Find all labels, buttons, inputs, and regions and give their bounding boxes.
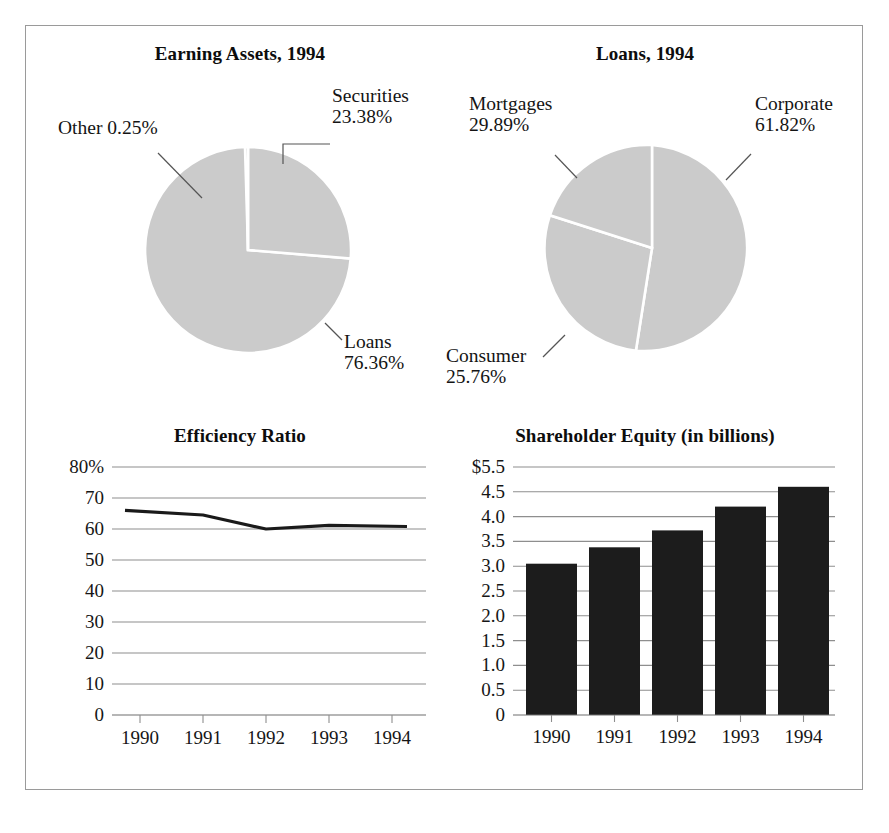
efficiency-x-tickmarks [140, 715, 392, 723]
equity-xtick-1992: 1992 [642, 726, 713, 748]
corporate-label-block: Corporate 61.82% [755, 93, 833, 135]
equity-ytick-3-0: 3.0 [445, 555, 505, 577]
pie-slice-securities[interactable] [248, 147, 351, 259]
efficiency-ytick-50: 50 [40, 549, 104, 571]
efficiency-data-line [125, 510, 407, 529]
panel-loans: Loans, 1994 Mortgages 29.89% Corporate 6… [445, 35, 845, 385]
loans-label-block: Loans 76.36% [344, 331, 404, 373]
bar-1992[interactable] [652, 530, 703, 715]
equity-ytick-0: 0 [445, 704, 505, 726]
bar-1993[interactable] [715, 507, 766, 715]
consumer-leader-line [543, 335, 565, 357]
other-label: Other 0.25% [58, 117, 158, 138]
panel-efficiency-ratio: Efficiency Ratio [40, 425, 440, 765]
efficiency-gridlines [112, 467, 426, 684]
mortgages-leader-line [555, 155, 577, 178]
panel-earning-assets: Earning Assets, 1994 Securities 23.38% O… [40, 35, 440, 385]
securities-label: Securities [332, 85, 409, 106]
equity-xtick-1993: 1993 [705, 726, 776, 748]
equity-ytick-0-5: 0.5 [445, 679, 505, 701]
equity-xtick-1990: 1990 [516, 726, 587, 748]
efficiency-ytick-10: 10 [40, 673, 104, 695]
equity-ytick-5-5: $5.5 [445, 456, 505, 478]
equity-x-tickmarks [552, 715, 804, 722]
efficiency-ytick-60: 60 [40, 518, 104, 540]
corporate-leader-line [726, 154, 751, 180]
efficiency-ytick-40: 40 [40, 580, 104, 602]
equity-ytick-4-5: 4.5 [445, 481, 505, 503]
efficiency-xtick-1992: 1992 [231, 727, 301, 749]
equity-ytick-1-5: 1.5 [445, 630, 505, 652]
efficiency-xtick-1991: 1991 [168, 727, 238, 749]
figure-page: Earning Assets, 1994 Securities 23.38% O… [0, 0, 889, 833]
consumer-label-block: Consumer 25.76% [446, 345, 526, 387]
loans-leader-line [325, 323, 342, 340]
securities-value: 23.38% [332, 106, 409, 127]
mortgages-label: Mortgages [469, 93, 552, 114]
bar-1994[interactable] [778, 487, 829, 715]
bar-1991[interactable] [589, 547, 640, 715]
equity-ytick-4-0: 4.0 [445, 506, 505, 528]
equity-ytick-2-5: 2.5 [445, 580, 505, 602]
efficiency-xtick-1990: 1990 [105, 727, 175, 749]
equity-ytick-1-0: 1.0 [445, 654, 505, 676]
equity-ytick-2-0: 2.0 [445, 605, 505, 627]
shareholder-equity-svg [445, 425, 855, 765]
equity-xtick-1991: 1991 [579, 726, 650, 748]
equity-ytick-3-5: 3.5 [445, 530, 505, 552]
efficiency-ytick-20: 20 [40, 642, 104, 664]
corporate-label: Corporate [755, 93, 833, 114]
efficiency-ytick-70: 70 [40, 487, 104, 509]
consumer-value: 25.76% [446, 366, 526, 387]
securities-label-block: Securities 23.38% [332, 85, 409, 127]
loans-label: Loans [344, 331, 404, 352]
loans-value: 76.36% [344, 352, 404, 373]
mortgages-label-block: Mortgages 29.89% [469, 93, 552, 135]
bar-1990[interactable] [526, 564, 577, 715]
efficiency-ytick-0: 0 [40, 704, 104, 726]
consumer-label: Consumer [446, 345, 526, 366]
efficiency-xtick-1994: 1994 [357, 727, 427, 749]
efficiency-xtick-1993: 1993 [294, 727, 364, 749]
loans-pie-svg [445, 35, 845, 385]
corporate-value: 61.82% [755, 114, 833, 135]
efficiency-ytick-30: 30 [40, 611, 104, 633]
panel-shareholder-equity: Shareholder Equity (in billions) [445, 425, 855, 765]
efficiency-ytick-80: 80% [40, 456, 104, 478]
equity-xtick-1994: 1994 [768, 726, 839, 748]
mortgages-value: 29.89% [469, 114, 552, 135]
